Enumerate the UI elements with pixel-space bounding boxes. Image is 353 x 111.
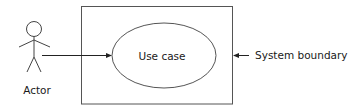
actor-right-leg (34, 57, 41, 72)
use-case-label: Use case (132, 50, 192, 62)
actor-left-arm (19, 40, 34, 47)
actor-label: Actor (18, 84, 56, 96)
actor-right-arm (34, 40, 50, 47)
actor-head (27, 22, 42, 37)
stick-figure-icon (19, 22, 50, 73)
actor-left-leg (27, 57, 34, 72)
system-boundary-label: System boundary (255, 49, 348, 61)
